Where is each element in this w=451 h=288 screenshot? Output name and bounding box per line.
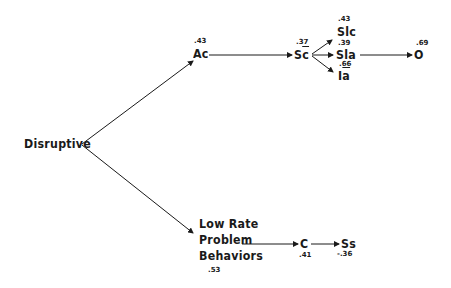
node-lrpb: Low Rate Problem Behaviors [199, 216, 263, 264]
node-sc-bar: c [302, 47, 309, 62]
coef-sla: .39 [338, 39, 350, 47]
coef-c: .41 [299, 251, 311, 259]
edge-disruptive-ac [82, 61, 193, 144]
node-ss: Ss [341, 236, 356, 251]
coef-ss: -.36 [337, 250, 352, 258]
edge-sc-slc [312, 40, 332, 54]
node-lrpb-line3: Behaviors [199, 248, 263, 264]
node-o: O [414, 47, 424, 62]
node-disruptive: Disruptive [24, 136, 91, 151]
coef-ia: .66 [339, 60, 351, 68]
node-ia-bar: a [342, 68, 350, 83]
node-ia: Ia [338, 68, 350, 83]
node-c: C [300, 236, 308, 251]
coef-ac: .43 [194, 37, 206, 45]
coef-slc: .43 [338, 15, 350, 23]
node-lrpb-line1: Low Rate [199, 216, 263, 232]
node-slc: Slc [337, 24, 356, 39]
edge-sc-ia [312, 56, 333, 72]
coef-lrpb: .53 [208, 266, 220, 274]
node-lrpb-line2: Problem [199, 232, 263, 248]
node-sc-main: S [294, 47, 302, 62]
coef-sc: .37 [296, 38, 308, 46]
edge-disruptive-lrpb [82, 145, 193, 233]
node-ac: Ac [193, 46, 209, 61]
node-sc: Sc [294, 47, 309, 62]
coef-o: .69 [416, 39, 428, 47]
